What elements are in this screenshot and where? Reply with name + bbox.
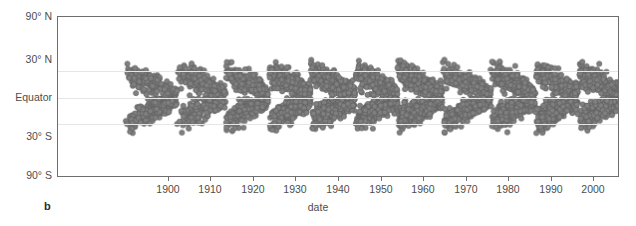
panel-label: b: [44, 200, 51, 212]
x-tick-label: 1920: [241, 183, 264, 195]
x-axis-title: date: [0, 201, 636, 213]
x-tick-mark: [253, 177, 254, 181]
y-tick-label-30s: 30° S: [26, 131, 52, 142]
x-tick-label: 2000: [581, 183, 604, 195]
x-tick-mark: [551, 177, 552, 181]
x-tick-mark: [466, 177, 467, 181]
x-tick-mark: [338, 177, 339, 181]
y-axis: 90° N 30° N Equator 30° S 90° S: [0, 0, 52, 226]
scatter-plot-canvas: [58, 17, 618, 176]
sunspot-butterfly-figure: 90° N 30° N Equator 30° S 90° S 19001910…: [0, 0, 636, 226]
x-tick-mark: [295, 177, 296, 181]
x-tick-label: 1970: [454, 183, 477, 195]
x-tick-label: 1960: [411, 183, 434, 195]
x-tick-label: 1910: [198, 183, 221, 195]
x-tick-mark: [381, 177, 382, 181]
x-tick-label: 1900: [156, 183, 179, 195]
x-tick-mark: [508, 177, 509, 181]
gridline: [58, 98, 618, 99]
x-tick-label: 1990: [539, 183, 562, 195]
x-tick-mark: [168, 177, 169, 181]
x-tick-mark: [423, 177, 424, 181]
x-tick-label: 1940: [326, 183, 349, 195]
plot-area: [57, 16, 619, 177]
x-tick-label: 1980: [496, 183, 519, 195]
x-tick-mark: [210, 177, 211, 181]
x-tick-label: 1950: [369, 183, 392, 195]
gridline: [58, 124, 618, 125]
y-tick-label-equator: Equator: [15, 92, 52, 103]
x-tick-label: 1930: [283, 183, 306, 195]
gridline: [58, 71, 618, 72]
y-tick-label-30n: 30° N: [26, 54, 52, 65]
x-tick-mark: [593, 177, 594, 181]
y-tick-label-90s: 90° S: [26, 170, 52, 181]
x-axis: 1900191019201930194019501960197019801990…: [57, 179, 619, 199]
y-tick-label-90n: 90° N: [26, 11, 52, 22]
